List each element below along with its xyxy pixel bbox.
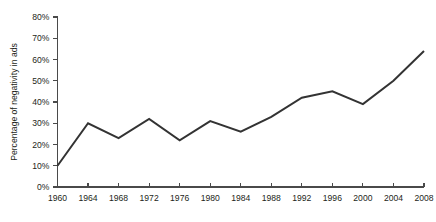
chart-background [0,0,436,222]
x-axis-tick-label: 1960 [48,193,67,203]
y-axis-tick-label: 10% [32,161,50,171]
x-axis-tick-label: 1968 [109,193,128,203]
y-axis-tick-label: 60% [32,55,50,65]
x-axis-tick-label: 1996 [323,193,342,203]
x-axis-tick-label: 1976 [170,193,189,203]
x-axis-tick-label: 1980 [201,193,220,203]
y-axis-tick-label: 40% [32,97,50,107]
x-axis-tick-label: 2008 [414,193,433,203]
y-axis-tick-label: 20% [32,140,50,150]
line-chart: 0%10%20%30%40%50%60%70%80% 1960196419681… [0,0,436,222]
y-axis-tick-label: 0% [37,182,50,192]
y-axis-title: Percentage of negativity in ads [9,43,19,161]
x-axis-tick-label: 1984 [231,193,250,203]
y-axis-tick-label: 30% [32,118,50,128]
x-axis-tick-label: 2000 [353,193,372,203]
x-axis-tick-label: 2004 [384,193,403,203]
chart-container: 0%10%20%30%40%50%60%70%80% 1960196419681… [0,0,436,222]
y-axis-tick-label: 50% [32,76,50,86]
x-axis-tick-label: 1992 [292,193,311,203]
x-axis-tick-label: 1972 [140,193,159,203]
y-axis-tick-label: 70% [32,33,50,43]
y-axis-tick-label: 80% [32,12,50,22]
x-axis-tick-label: 1964 [78,193,97,203]
x-axis-tick-label: 1988 [262,193,281,203]
